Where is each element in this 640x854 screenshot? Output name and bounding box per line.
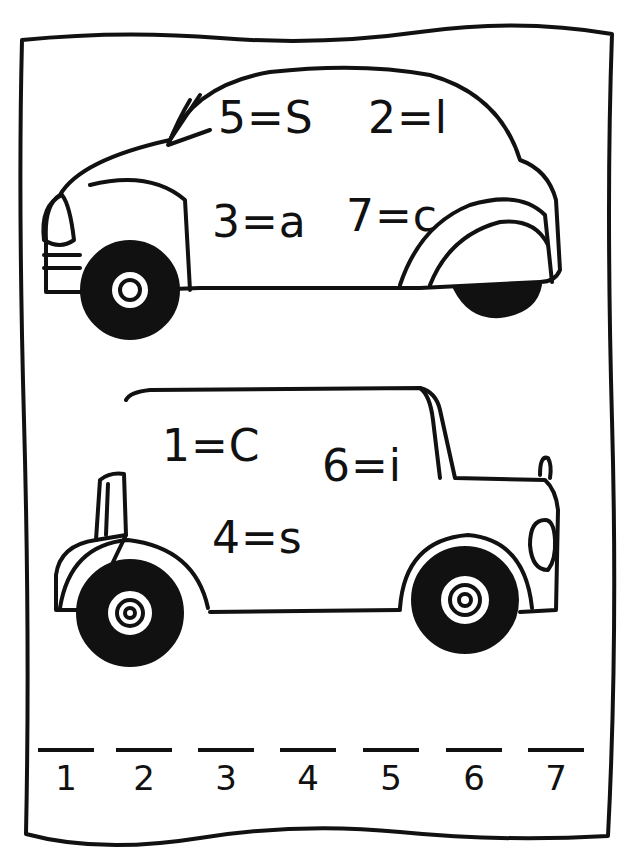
answer-blank-5[interactable]: 5 <box>363 748 419 798</box>
answer-blank-2[interactable]: 2 <box>116 748 172 798</box>
blank-number: 3 <box>215 758 237 798</box>
answer-blank-1[interactable]: 1 <box>38 748 94 798</box>
worksheet-drawing <box>0 0 640 854</box>
answer-blank-4[interactable]: 4 <box>280 748 336 798</box>
wavy-border <box>20 25 614 845</box>
blank-number: 5 <box>380 758 402 798</box>
blank-number: 4 <box>297 758 319 798</box>
clue-2-l: 2=l <box>368 92 448 143</box>
clue-6-i: 6=i <box>322 440 402 491</box>
blank-number: 2 <box>133 758 155 798</box>
car-bottom-icon <box>56 388 558 665</box>
clue-7-c: 7=c <box>346 190 438 241</box>
blank-number: 7 <box>545 758 567 798</box>
answer-blank-3[interactable]: 3 <box>198 748 254 798</box>
answer-blanks: 1 2 3 4 5 6 7 <box>38 748 604 818</box>
blank-number: 6 <box>463 758 485 798</box>
clue-4-s: 4=s <box>212 512 303 563</box>
clue-1-c: 1=C <box>162 420 261 471</box>
answer-blank-7[interactable]: 7 <box>528 748 584 798</box>
answer-blank-6[interactable]: 6 <box>446 748 502 798</box>
clue-5-s: 5=S <box>218 92 314 143</box>
clue-3-a: 3=a <box>212 196 307 247</box>
blank-number: 1 <box>55 758 77 798</box>
